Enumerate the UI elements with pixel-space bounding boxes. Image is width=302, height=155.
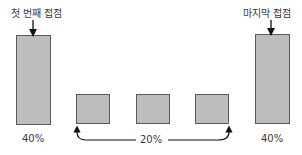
middle-share: 20% <box>140 134 162 145</box>
middle-range-left-arrow-icon <box>77 129 136 140</box>
arrows-layer <box>0 0 302 155</box>
first-touch-share: 40% <box>22 133 44 144</box>
last-touch-share: 40% <box>261 133 283 144</box>
middle-range-right-arrow-icon <box>168 129 229 140</box>
